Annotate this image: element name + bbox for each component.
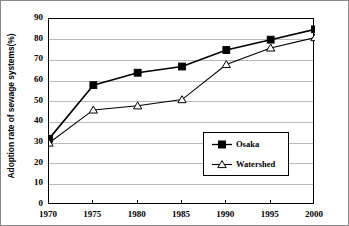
y-axis-title-text: Adoption rate of sewage systems(%) [6,34,16,179]
data-point-marker-square [134,69,141,76]
legend-label-osaka: Osaka [236,139,259,149]
y-axis-tick-label: 50 [17,96,43,105]
series-line-osaka [49,29,315,139]
chart-figure: Adoption rate of sewage systems(%) 01020… [0,0,349,226]
y-axis-tick-label: 90 [17,13,43,22]
y-axis-tick-label: 0 [17,199,43,208]
y-axis-tick-label: 20 [17,158,43,167]
x-axis-tick [181,200,182,204]
data-point-marker-square [223,47,230,54]
x-axis-tick-label: 1990 [202,210,248,219]
y-axis-tick-label: 40 [17,116,43,125]
x-axis-tick [270,200,271,204]
legend: Osaka Watershed [203,132,289,176]
data-point-marker-square [90,82,97,89]
x-axis-tick-label: 1975 [69,210,115,219]
data-point-marker-square [312,26,315,33]
x-axis-tick [92,200,93,204]
x-axis-tick-label: 1970 [25,210,71,219]
legend-item-osaka: Osaka [204,138,288,151]
y-axis-tick-label: 80 [17,34,43,43]
data-point-marker-square [179,63,186,70]
plot-area: Osaka Watershed [48,18,314,204]
legend-label-watershed: Watershed [236,159,275,169]
x-axis-tick-label: 1980 [114,210,160,219]
legend-marker-filled-square [211,139,233,150]
x-axis-tick-label: 2000 [291,210,337,219]
y-axis-tick-label: 70 [17,54,43,63]
x-axis-tick-label: 1995 [247,210,293,219]
x-axis-tick [137,200,138,204]
x-axis-tick [225,200,226,204]
y-axis-tick-label: 30 [17,137,43,146]
data-point-marker-triangle [311,34,315,41]
legend-marker-open-triangle [211,159,233,170]
x-axis-tick-label: 1985 [158,210,204,219]
y-axis-tick-label: 10 [17,178,43,187]
data-point-marker-triangle [222,61,230,68]
legend-item-watershed: Watershed [204,158,288,171]
y-axis-tick-label: 60 [17,75,43,84]
data-point-marker-square [267,36,274,43]
series-layer [49,19,315,205]
